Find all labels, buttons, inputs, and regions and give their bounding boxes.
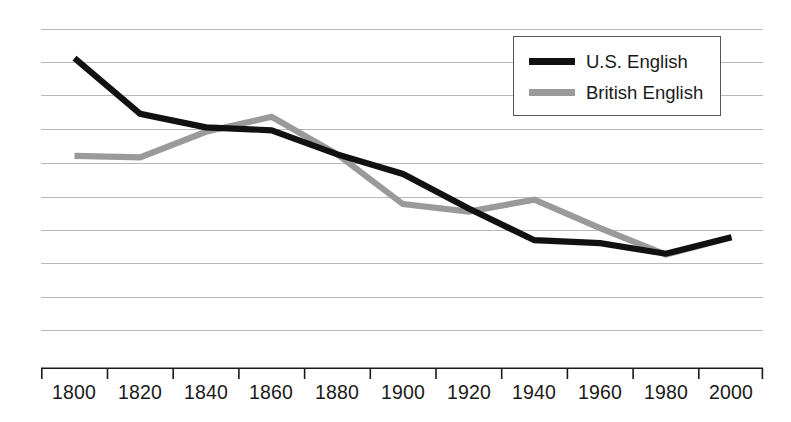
legend-swatch-british-english-icon [529, 89, 575, 96]
x-tick-label-1900: 1900 [370, 381, 436, 404]
x-tick-label-1940: 1940 [501, 381, 567, 404]
chart-legend: U.S. English British English [513, 36, 721, 116]
x-tick-label-1840: 1840 [173, 381, 239, 404]
legend-item-us-english: U.S. English [514, 46, 720, 77]
x-tick-label-1980: 1980 [633, 381, 699, 404]
x-axis-tick-labels: 1800 1820 1840 1860 1880 1900 1920 1940 … [0, 381, 791, 411]
legend-label-us-english: U.S. English [586, 51, 688, 73]
x-tick-label-1880: 1880 [304, 381, 370, 404]
x-axis [41, 368, 763, 379]
legend-label-british-english: British English [586, 82, 703, 104]
x-tick-label-1920: 1920 [436, 381, 502, 404]
legend-swatch-us-english-icon [529, 58, 575, 65]
x-tick-label-1860: 1860 [238, 381, 304, 404]
x-tick-label-2000: 2000 [698, 381, 764, 404]
line-chart: 1800 1820 1840 1860 1880 1900 1920 1940 … [0, 0, 791, 422]
x-tick-label-1820: 1820 [107, 381, 173, 404]
x-tick-label-1800: 1800 [41, 381, 107, 404]
legend-item-british-english: British English [514, 77, 720, 108]
series-line-british-english [75, 117, 732, 255]
x-tick-label-1960: 1960 [567, 381, 633, 404]
